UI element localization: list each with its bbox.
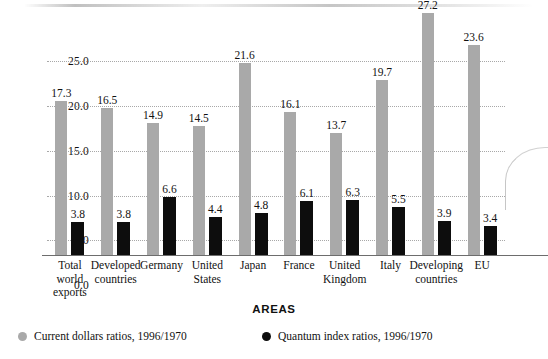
category-label-line: exports <box>33 286 106 300</box>
bar-group: 27.23.9 <box>422 1 451 256</box>
x-axis-line <box>42 255 548 256</box>
bar-group: 19.75.5 <box>376 1 405 256</box>
bar-value-label: 13.7 <box>326 119 346 131</box>
bar-value-label: 6.1 <box>300 187 314 199</box>
bar: 16.1 <box>284 112 296 256</box>
legend-label: Current dollars ratios, 1996/1970 <box>34 330 187 342</box>
bar-value-label: 3.4 <box>483 212 497 224</box>
bar: 23.6 <box>468 45 480 256</box>
bar-value-label: 17.3 <box>51 87 71 99</box>
bar-value-label: 3.9 <box>437 207 451 219</box>
bar-group: 16.16.1 <box>284 1 313 256</box>
bar: 3.8 <box>117 222 130 256</box>
bar: 3.8 <box>71 222 84 256</box>
bar: 3.4 <box>484 226 497 256</box>
bar-value-label: 4.4 <box>208 203 222 215</box>
bar: 4.4 <box>209 217 222 256</box>
bar-group: 14.96.6 <box>147 1 176 256</box>
bar-value-label: 27.2 <box>418 0 438 11</box>
legend-label: Quantum index ratios, 1996/1970 <box>278 330 433 342</box>
bar-value-label: 16.1 <box>280 98 300 110</box>
bar-group: 16.53.8 <box>101 1 130 256</box>
bar: 27.2 <box>422 13 434 256</box>
bar-value-label: 19.7 <box>372 66 392 78</box>
bar-value-label: 3.8 <box>117 208 131 220</box>
bar-value-label: 4.8 <box>254 199 268 211</box>
legend-color-swatch-icon <box>18 332 27 341</box>
category-label-line: EU <box>445 259 518 273</box>
bar: 3.9 <box>438 221 451 256</box>
bar-value-label: 23.6 <box>464 31 484 43</box>
bar: 14.9 <box>147 123 159 256</box>
plot-area: 0.05.010.015.020.025.0 17.33.816.53.814.… <box>47 30 505 256</box>
bar: 19.7 <box>376 80 388 256</box>
bar-group: 23.63.4 <box>468 1 497 256</box>
bar-value-label: 21.6 <box>235 49 255 61</box>
bar-group: 14.54.4 <box>193 1 222 256</box>
bar-value-label: 3.8 <box>71 208 85 220</box>
scan-artifact-page-curl <box>505 147 548 210</box>
bar: 13.7 <box>330 133 342 256</box>
x-axis-title: AREAS <box>0 303 548 315</box>
bar-series-container: 17.33.816.53.814.96.614.54.421.64.816.16… <box>47 30 505 256</box>
scan-artifact-top-line <box>24 4 532 7</box>
category-label-line: Kingdom <box>308 273 381 287</box>
legend-item: Current dollars ratios, 1996/1970 <box>18 330 187 342</box>
bar-value-label: 14.9 <box>143 109 163 121</box>
chart-legend: Current dollars ratios, 1996/1970Quantum… <box>0 330 548 350</box>
category-label-line: countries <box>79 273 152 287</box>
bar: 21.6 <box>239 63 251 256</box>
x-axis-category-labels: TotalworldexportsDevelopedcountriesGerma… <box>47 259 505 303</box>
bar: 16.5 <box>101 108 113 256</box>
bar-value-label: 5.5 <box>391 193 405 205</box>
bar-value-label: 14.5 <box>189 112 209 124</box>
category-label-line: States <box>171 273 244 287</box>
x-axis-category-label: EU <box>445 259 518 273</box>
bar: 17.3 <box>55 101 67 256</box>
legend-item: Quantum index ratios, 1996/1970 <box>262 330 433 342</box>
bar: 5.5 <box>392 207 405 256</box>
category-label-line: countries <box>400 273 473 287</box>
bar: 4.8 <box>255 213 268 256</box>
chart-figure: 0.05.010.015.020.025.0 17.33.816.53.814.… <box>0 0 548 359</box>
bar-value-label: 16.5 <box>97 94 117 106</box>
bar-group: 21.64.8 <box>239 1 268 256</box>
bar: 6.3 <box>346 200 359 256</box>
bar: 6.6 <box>163 197 176 256</box>
bar-value-label: 6.6 <box>162 183 176 195</box>
bar-group: 13.76.3 <box>330 1 359 256</box>
bar: 6.1 <box>300 201 313 256</box>
bar-group: 17.33.8 <box>55 1 84 256</box>
bar-value-label: 6.3 <box>346 186 360 198</box>
bar: 14.5 <box>193 126 205 256</box>
legend-color-swatch-icon <box>262 332 271 341</box>
